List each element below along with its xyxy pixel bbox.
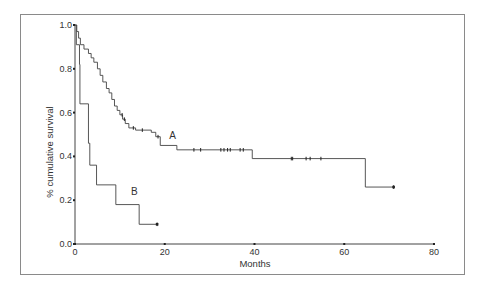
x-tick-mark [164, 243, 166, 245]
x-axis-title: Months [239, 258, 270, 269]
y-tick-mark [73, 199, 75, 201]
curve-b [75, 25, 158, 226]
y-tick-mark [73, 24, 75, 26]
x-tick-label: 40 [249, 247, 259, 257]
y-tick-label: 0.4 [59, 151, 72, 161]
y-tick-label: 0.6 [59, 108, 72, 118]
end-censor-dot [156, 223, 159, 226]
survival-step-line [75, 25, 157, 224]
x-tick-mark [254, 243, 256, 245]
survival-chart: 0204060800.00.20.40.60.81.0 Months % cum… [0, 0, 483, 288]
x-tick-mark [433, 243, 435, 245]
x-tick-label: 80 [429, 247, 439, 257]
y-tick-label: 1.0 [59, 20, 72, 30]
axes: 0204060800.00.20.40.60.81.0 [59, 20, 439, 257]
y-tick-mark [73, 243, 75, 245]
y-tick-mark [73, 155, 75, 157]
y-tick-mark [73, 68, 75, 70]
y-tick-label: 0.0 [59, 239, 72, 249]
x-tick-label: 0 [72, 247, 77, 257]
y-tick-label: 0.2 [59, 195, 72, 205]
y-axis-title: % cumulative survival [44, 106, 55, 197]
x-tick-label: 60 [339, 247, 349, 257]
y-tick-mark [73, 112, 75, 114]
survival-step-line [75, 25, 394, 187]
y-tick-label: 0.8 [59, 64, 72, 74]
curve-b-label: B [131, 186, 138, 197]
curve-a [75, 25, 395, 189]
end-censor-dot [392, 186, 395, 189]
x-tick-label: 20 [160, 247, 170, 257]
curve-a-label: A [169, 130, 176, 141]
curves [75, 25, 395, 226]
x-tick-mark [343, 243, 345, 245]
